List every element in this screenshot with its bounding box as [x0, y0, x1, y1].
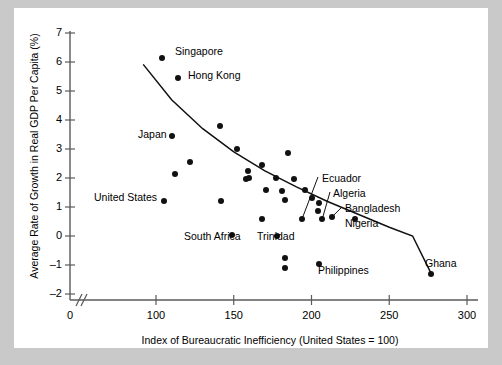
data-point-hong-kong	[175, 75, 181, 81]
data-point-united-states	[161, 198, 167, 204]
x-axis-label: Index of Bureaucratic Inefficiency (Unit…	[70, 334, 470, 346]
axes	[65, 31, 478, 306]
y-tick-label: –2	[44, 288, 62, 299]
point-label-south-africa: South Africa	[184, 231, 241, 242]
data-point-ecuador	[299, 216, 305, 222]
data-point	[282, 255, 288, 261]
data-point	[282, 265, 288, 271]
trend-line	[144, 65, 432, 274]
data-point	[273, 175, 279, 181]
point-label-bangladesh: Bangladesh	[345, 203, 400, 214]
x-tick-label: 300	[447, 310, 487, 321]
point-label-united-states: United States	[94, 192, 157, 203]
data-point	[217, 123, 223, 129]
y-tick-label: 7	[44, 27, 62, 38]
x-tick-label: 250	[369, 310, 409, 321]
data-point-bangladesh	[329, 214, 335, 220]
point-label-singapore: Singapore	[175, 46, 223, 57]
x-tick-label: 0	[50, 310, 90, 321]
point-label-ecuador: Ecuador	[322, 173, 361, 184]
point-label-hong-kong: Hong Kong	[188, 70, 241, 81]
y-tick-label: 3	[44, 143, 62, 154]
y-tick-label: 4	[44, 114, 62, 125]
data-point	[302, 187, 308, 193]
data-point	[282, 197, 288, 203]
data-point	[316, 200, 322, 206]
x-tick-label: 200	[292, 310, 332, 321]
point-label-trinidad: Trinidad	[257, 231, 295, 242]
y-tick-label: 0	[44, 230, 62, 241]
y-tick-label: 1	[44, 201, 62, 212]
point-label-ghana: Ghana	[425, 258, 457, 269]
data-point-japan	[169, 133, 175, 139]
x-tick-label: 100	[136, 310, 176, 321]
x-tick-label: 150	[214, 310, 254, 321]
y-tick-label: 6	[44, 56, 62, 67]
data-point	[309, 195, 315, 201]
data-point	[259, 162, 265, 168]
data-point	[259, 216, 265, 222]
data-point-ghana	[428, 271, 434, 277]
y-tick-label: –1	[44, 259, 62, 270]
data-point	[245, 168, 251, 174]
point-label-japan: Japan	[138, 129, 167, 140]
y-tick-label: 2	[44, 172, 62, 183]
point-label-philippines: Philippines	[318, 265, 369, 276]
point-label-nigeria: Nigeria	[345, 218, 378, 229]
y-tick-label: 5	[44, 85, 62, 96]
point-label-algeria: Algeria	[333, 188, 366, 199]
screenshot-frame: –2–1012345670100150200250300 SingaporeHo…	[0, 0, 502, 365]
data-point-singapore	[159, 55, 165, 61]
y-axis-label: Average Rate of Growth in Real GDP Per C…	[28, 26, 40, 286]
data-point-algeria	[319, 216, 325, 222]
data-point	[279, 188, 285, 194]
data-point	[234, 146, 240, 152]
data-point	[172, 171, 178, 177]
